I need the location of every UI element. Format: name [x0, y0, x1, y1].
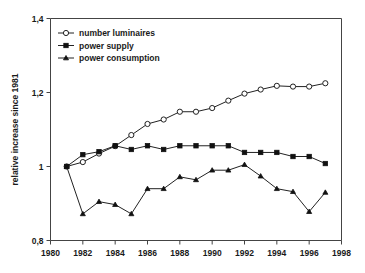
legend-item-1: power supply	[58, 41, 134, 51]
data-point-marker	[161, 117, 166, 122]
x-tick-label: 1992	[235, 248, 254, 258]
data-point-marker	[258, 87, 263, 92]
data-point-marker	[323, 190, 328, 194]
y-tick-label: 1	[39, 162, 44, 172]
x-tick-label: 1996	[300, 248, 319, 258]
chart-series	[64, 81, 328, 216]
data-point-marker	[210, 144, 214, 148]
x-tick-label: 1988	[170, 248, 189, 258]
data-point-marker	[129, 132, 134, 137]
y-tick-label: 1,2	[32, 88, 44, 98]
data-point-marker	[177, 174, 182, 178]
chart-legend: number luminairespower supplypower consu…	[58, 28, 160, 63]
series-2	[64, 162, 328, 216]
data-point-marker	[242, 162, 247, 166]
data-point-marker	[145, 121, 150, 126]
data-point-marker	[307, 154, 311, 158]
data-point-marker	[323, 81, 328, 86]
data-point-marker	[290, 84, 295, 89]
chart-axis-labels: 0,811,21,4198019821984198619881990199219…	[10, 14, 351, 258]
data-point-marker	[178, 144, 182, 148]
data-point-marker	[307, 84, 312, 89]
data-point-marker	[274, 83, 279, 88]
data-point-marker	[161, 147, 165, 151]
series-1	[64, 144, 327, 169]
data-point-marker	[226, 98, 231, 103]
data-point-marker	[97, 150, 101, 154]
data-point-marker	[129, 147, 133, 151]
data-point-marker	[242, 91, 247, 96]
x-tick-label: 1998	[332, 248, 351, 258]
data-point-marker	[291, 154, 295, 158]
legend-label: number luminaires	[79, 28, 155, 38]
legend-item-0: number luminaires	[58, 28, 155, 38]
data-point-marker	[63, 30, 68, 35]
data-point-marker	[113, 144, 117, 148]
data-point-marker	[80, 159, 85, 164]
data-point-marker	[210, 105, 215, 110]
data-point-marker	[81, 152, 85, 156]
x-tick-label: 1994	[267, 248, 286, 258]
legend-label: power consumption	[79, 53, 160, 63]
data-point-marker	[96, 199, 101, 203]
data-point-marker	[258, 174, 263, 178]
legend-item-2: power consumption	[58, 53, 160, 63]
data-point-marker	[226, 144, 230, 148]
x-tick-label: 1982	[73, 248, 92, 258]
relative-increase-line-chart: number luminairespower supplypower consu…	[0, 0, 365, 273]
x-tick-label: 1984	[106, 248, 125, 258]
y-axis-title: relative increase since 1981	[10, 73, 20, 185]
data-point-marker	[193, 109, 198, 114]
x-tick-label: 1986	[138, 248, 157, 258]
data-point-marker	[242, 150, 246, 154]
x-tick-label: 1990	[203, 248, 222, 258]
data-point-marker	[64, 43, 68, 47]
legend-label: power supply	[79, 41, 134, 51]
data-point-marker	[145, 144, 149, 148]
data-point-marker	[194, 144, 198, 148]
x-tick-label: 1980	[41, 248, 60, 258]
chart-container: number luminairespower supplypower consu…	[0, 0, 365, 273]
data-point-marker	[177, 109, 182, 114]
y-tick-label: 1,4	[32, 14, 44, 24]
y-tick-label: 0,8	[32, 236, 44, 246]
data-point-marker	[275, 150, 279, 154]
data-point-marker	[258, 150, 262, 154]
data-point-marker	[323, 161, 327, 165]
